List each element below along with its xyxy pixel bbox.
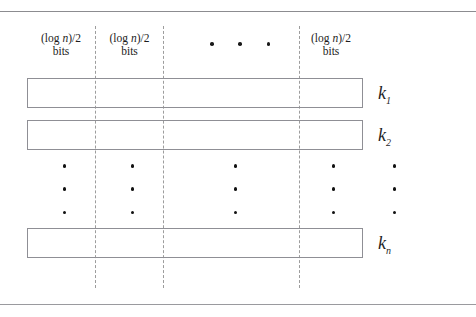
ellipsis-dot (131, 211, 135, 215)
vertical-ellipsis-3 (233, 164, 238, 214)
row-label-k2: k2 (378, 126, 422, 144)
bit-vector-box-kn (27, 228, 363, 258)
row-label-k1: k1 (378, 84, 422, 102)
vertical-ellipsis-4 (331, 164, 336, 214)
ellipsis-dot (393, 211, 397, 215)
bit-partition-figure: (log n)/2 bits (log n)/2 bits (log n)/2 … (0, 0, 476, 317)
ellipsis-dot (234, 211, 238, 215)
column-header-first-line1: (log n)/2 (27, 32, 95, 45)
bit-vector-box-k2 (27, 120, 363, 150)
ellipsis-dot (63, 211, 67, 215)
ellipsis-dot (131, 187, 135, 191)
vertical-ellipsis-1 (62, 164, 67, 214)
ellipsis-dot (210, 42, 214, 46)
ellipsis-dot (267, 42, 271, 46)
ellipsis-dot (131, 164, 135, 168)
ellipsis-dot (332, 187, 336, 191)
vertical-ellipsis-2 (130, 164, 135, 214)
ellipsis-dot (393, 187, 397, 191)
ellipsis-dot (63, 164, 67, 168)
ellipsis-dot (332, 211, 336, 215)
column-header-last-line1: (log n)/2 (299, 32, 363, 45)
ellipsis-dot (332, 164, 336, 168)
vertical-ellipsis-5 (392, 164, 397, 214)
bit-vector-box-k1 (27, 78, 363, 108)
ellipsis-dot (393, 164, 397, 168)
column-header-second-line2: bits (96, 45, 163, 58)
column-header-second-line1: (log n)/2 (96, 32, 163, 45)
bottom-rule (0, 304, 476, 305)
ellipsis-dot (238, 42, 242, 46)
column-header-last-line2: bits (299, 45, 363, 58)
column-header-first-line2: bits (27, 45, 95, 58)
ellipsis-dot (234, 164, 238, 168)
horizontal-ellipsis (196, 38, 284, 50)
column-header-first: (log n)/2 bits (27, 32, 95, 58)
row-label-kn: kn (378, 234, 422, 252)
top-rule (0, 11, 476, 12)
ellipsis-dot (234, 187, 238, 191)
column-header-second: (log n)/2 bits (96, 32, 163, 58)
column-header-last: (log n)/2 bits (299, 32, 363, 58)
ellipsis-dot (63, 187, 67, 191)
